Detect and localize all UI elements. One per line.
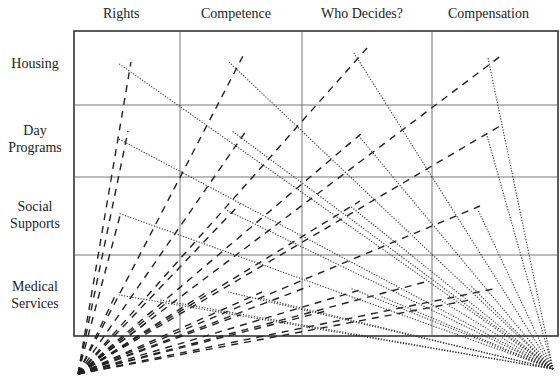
dotted-line — [229, 62, 553, 369]
dashed-line — [78, 206, 480, 374]
grid — [74, 31, 558, 336]
dashed-line — [78, 290, 360, 374]
dotted-line — [486, 132, 553, 369]
dotted-line — [117, 138, 553, 369]
grid-border — [74, 31, 558, 336]
dashed-line — [78, 288, 498, 374]
dotted-line — [160, 300, 553, 369]
matrix-diagram — [0, 0, 560, 387]
dotted-line — [440, 300, 553, 369]
dashed-line — [78, 296, 115, 374]
dashed-lines — [78, 48, 502, 374]
dotted-line — [380, 296, 553, 369]
dotted-line — [354, 53, 553, 369]
dotted-line — [226, 210, 553, 369]
dashed-line — [78, 62, 131, 374]
dotted-line — [470, 285, 553, 369]
